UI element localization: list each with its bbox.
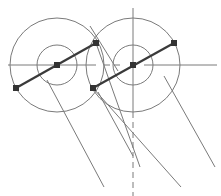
construction-drawing — [0, 0, 221, 196]
p-left-center-point — [54, 62, 60, 68]
p-top-mid-point — [93, 40, 99, 46]
p-left-end-point — [13, 85, 19, 91]
proj-5-line — [98, 92, 133, 156]
p-bottom-mid-point — [90, 85, 96, 91]
proj-4-line — [164, 76, 215, 167]
proj-3-line — [93, 88, 181, 187]
diagram-canvas — [0, 0, 221, 196]
p-right-center-point — [130, 62, 136, 68]
proj-1-line — [47, 80, 104, 187]
centerlines-group — [8, 8, 217, 196]
projection-lines-group — [47, 26, 215, 187]
p-right-end-point — [171, 40, 177, 46]
